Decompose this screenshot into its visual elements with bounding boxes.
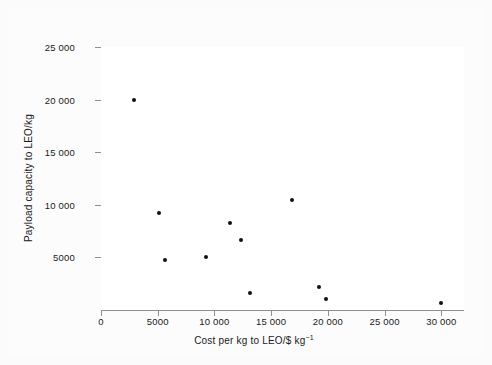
x-tick-label: 20 000	[313, 316, 343, 327]
data-point	[163, 258, 167, 262]
y-tick-label: 25 000	[45, 42, 75, 53]
x-axis-title: Cost per kg to LEO/$ kg−1	[8, 335, 492, 346]
data-point	[324, 297, 328, 301]
data-point	[317, 285, 321, 289]
scatter-chart-figure: 0500010 00015 00020 00025 00030 000 5000…	[0, 0, 492, 365]
x-tick-label: 0	[98, 316, 103, 327]
x-tick-label: 30 000	[426, 316, 456, 327]
data-point	[239, 238, 243, 242]
y-tick-label: 10 000	[45, 199, 75, 210]
y-tick-label: 15 000	[45, 147, 75, 158]
data-point	[204, 255, 208, 259]
y-tick-label: 5000	[53, 252, 75, 263]
data-point	[439, 301, 443, 305]
data-point	[290, 198, 294, 202]
x-tick-label: 15 000	[256, 316, 286, 327]
data-point	[132, 98, 136, 102]
x-tick-label: 5000	[147, 316, 169, 327]
figure-canvas: 0500010 00015 00020 00025 00030 000 5000…	[8, 8, 484, 357]
data-point	[248, 291, 252, 295]
y-axis-title: Payload capacity to LEO/kg	[23, 47, 37, 310]
y-tick-label: 20 000	[45, 94, 75, 105]
x-axis-title-exponent: −1	[305, 334, 313, 341]
plot-area	[101, 47, 464, 310]
x-axis-line	[101, 310, 464, 311]
x-tick-label: 25 000	[369, 316, 399, 327]
data-point	[228, 221, 232, 225]
data-point	[157, 211, 161, 215]
x-tick-label: 10 000	[199, 316, 229, 327]
